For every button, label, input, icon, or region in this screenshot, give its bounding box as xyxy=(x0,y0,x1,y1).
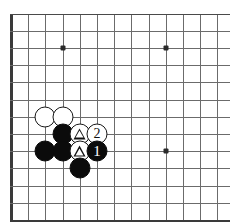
go-board-diagram: 21 xyxy=(0,0,230,222)
triangle-mark-icon xyxy=(74,128,86,139)
go-stone-black-1[interactable]: 1 xyxy=(87,141,108,162)
grid-line-horizontal xyxy=(10,168,230,169)
go-stone-black[interactable] xyxy=(69,158,90,179)
grid-line-horizontal xyxy=(10,31,230,32)
grid-line-horizontal xyxy=(10,100,230,101)
grid-line-horizontal xyxy=(10,14,230,15)
grid-line-horizontal xyxy=(10,186,230,187)
move-number-label: 1 xyxy=(93,144,101,159)
grid-line-horizontal xyxy=(10,134,230,135)
grid-line-horizontal xyxy=(10,65,230,66)
star-point xyxy=(163,45,168,50)
star-point xyxy=(60,45,65,50)
star-point xyxy=(163,149,168,154)
grid-line-horizontal xyxy=(10,203,230,204)
move-number-label: 2 xyxy=(94,127,101,141)
grid-line-horizontal xyxy=(10,48,230,49)
grid-line-horizontal xyxy=(10,82,230,83)
triangle-mark-icon xyxy=(74,146,86,157)
grid-line-horizontal xyxy=(10,220,230,222)
